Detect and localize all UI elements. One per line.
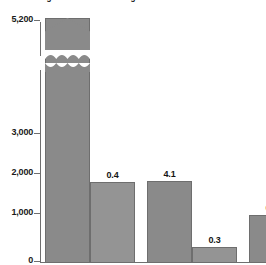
y-axis-tick-label: 2,000 [0,167,33,177]
bar-column [249,215,266,263]
bar-value-label: 0.4 [90,170,135,180]
bar-value-label: 0.3 [192,235,237,245]
y-axis-tick-mark [34,133,40,134]
bar-column [147,181,192,263]
y-axis-tick-label: 3,000 [0,127,33,137]
y-axis-tick-label: 5,200 [0,14,33,24]
bar-column [90,182,135,263]
bar-chart-plot: 5,2003,0002,0001,0000 1.50.44.10.30.80.5 [0,0,266,265]
y-axis-tick-label: 0 [0,255,33,265]
y-axis-spine-lower [40,70,41,263]
y-axis-spine-upper [40,22,41,56]
y-axis-tick-mark [34,261,40,262]
chart-figure: of remaining stocks is shown in figures … [0,0,266,265]
bar-value-label: 0.8 [249,203,266,213]
axis-break-wave-upper [45,50,90,59]
y-axis-tick-mark [34,173,40,174]
y-axis-tick-label: 1,000 [0,207,33,217]
axis-break-wave-lower [45,63,90,72]
y-axis-tick-mark [34,213,40,214]
y-axis-tick-mark [34,20,40,21]
bar-value-label: 4.1 [147,169,192,179]
bar-column [192,247,237,263]
